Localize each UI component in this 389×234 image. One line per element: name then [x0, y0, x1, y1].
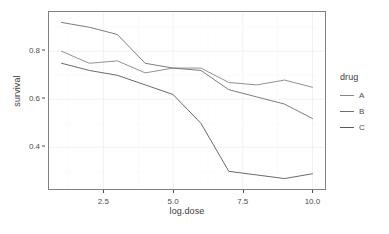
plot-panel	[48, 11, 326, 190]
x-tick-label: 10.0	[292, 197, 332, 206]
x-tick-label: 2.5	[83, 197, 123, 206]
x-tick-mark	[103, 190, 104, 193]
legend-line-icon	[340, 121, 354, 133]
legend: drug ABC	[340, 72, 389, 136]
x-axis-title: log.dose	[48, 206, 326, 216]
legend-item-label: A	[359, 91, 364, 100]
legend-line-icon	[340, 105, 354, 117]
chart-container: survival 0.40.60.8 2.55.07.510.0 log.dos…	[0, 0, 389, 234]
legend-item-label: B	[359, 107, 364, 116]
legend-title: drug	[340, 72, 389, 82]
legend-item-b[interactable]: B	[340, 104, 389, 118]
y-tick-mark	[42, 98, 45, 99]
legend-line-icon	[340, 89, 354, 101]
legend-items: ABC	[340, 88, 389, 134]
series-line-b	[62, 22, 313, 118]
legend-item-c[interactable]: C	[340, 120, 389, 134]
legend-item-label: C	[359, 123, 365, 132]
x-tick-label: 5.0	[153, 197, 193, 206]
series-line-c	[62, 63, 313, 178]
legend-item-a[interactable]: A	[340, 88, 389, 102]
x-tick-label: 7.5	[223, 197, 263, 206]
y-tick-mark	[42, 146, 45, 147]
x-tick-mark	[243, 190, 244, 193]
x-tick-mark	[173, 190, 174, 193]
y-tick-label: 0.6	[14, 94, 40, 103]
y-tick-mark	[42, 50, 45, 51]
y-tick-label: 0.4	[14, 142, 40, 151]
x-tick-mark	[312, 190, 313, 193]
y-tick-label: 0.8	[14, 46, 40, 55]
plot-lines	[49, 12, 325, 189]
